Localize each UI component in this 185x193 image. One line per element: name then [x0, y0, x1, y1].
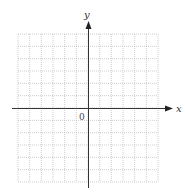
x-axis-arrow-icon: [165, 106, 173, 112]
y-axis-label: y: [83, 9, 90, 20]
origin-label: 0: [79, 112, 85, 122]
y-axis-arrow-icon: [86, 21, 92, 29]
x-axis-label: x: [176, 103, 182, 114]
x-axis: [12, 106, 173, 112]
coordinate-plane: x y 0: [0, 0, 185, 193]
